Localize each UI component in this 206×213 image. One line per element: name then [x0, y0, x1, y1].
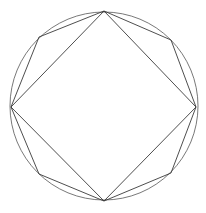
inscribed-octagon	[11, 11, 196, 201]
inscribed-polygons-diagram	[0, 0, 206, 213]
